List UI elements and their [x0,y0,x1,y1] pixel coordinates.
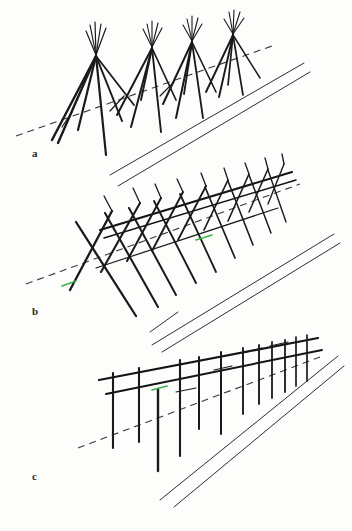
figure-canvas: .ink { stroke:#1a1a1a; stroke-linecap:ro… [0,0,352,531]
panel-label-c: c [32,470,37,482]
figure-root: .ink { stroke:#1a1a1a; stroke-linecap:ro… [0,0,352,531]
panel-label-a: a [32,147,38,159]
panel-label-b: b [32,305,38,317]
